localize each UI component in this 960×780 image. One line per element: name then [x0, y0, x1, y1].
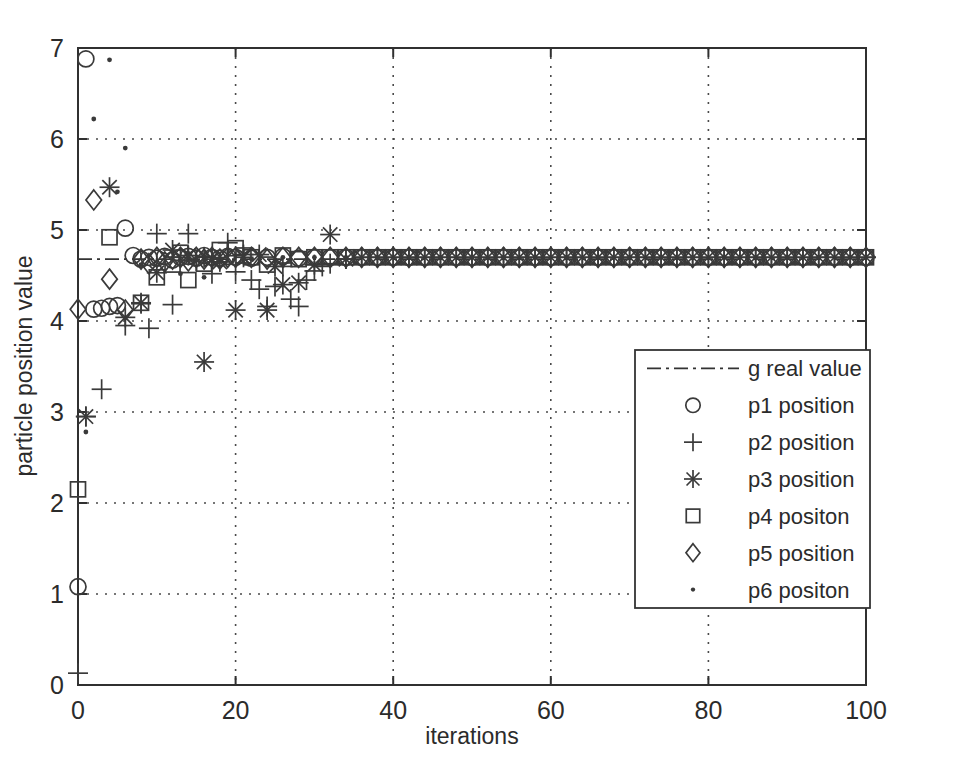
marker-point [753, 255, 758, 260]
legend-item-label: g real value [748, 356, 862, 381]
marker-star [684, 470, 702, 488]
marker-point [407, 255, 412, 260]
legend-item-label: p1 position [748, 393, 854, 418]
x-tick-label: 0 [71, 696, 85, 724]
marker-point [312, 255, 317, 260]
marker-point [115, 189, 120, 194]
particle-position-chart: 020406080100 01234567 iterations particl… [0, 0, 960, 780]
chart-canvas: 020406080100 01234567 iterations particl… [0, 0, 960, 780]
marker-point [344, 255, 349, 260]
marker-point [249, 257, 254, 262]
legend-item-label: p3 position [748, 467, 854, 492]
marker-star [320, 225, 340, 245]
marker-point [91, 117, 96, 122]
marker-point [533, 255, 538, 260]
legend-item-label: p5 position [748, 541, 854, 566]
marker-point [375, 255, 380, 260]
marker-point [564, 255, 569, 260]
marker-point [501, 255, 506, 260]
marker-point [690, 255, 695, 260]
y-tick-label: 0 [50, 671, 64, 699]
marker-star [257, 300, 277, 320]
marker-star [194, 352, 214, 372]
marker-point [202, 275, 207, 280]
marker-star [289, 273, 309, 293]
marker-star [226, 300, 246, 320]
marker-point [596, 255, 601, 260]
marker-point [659, 255, 664, 260]
marker-point [722, 255, 727, 260]
y-tick-label: 4 [50, 307, 64, 335]
y-tick-label: 6 [50, 125, 64, 153]
marker-point [691, 587, 695, 591]
marker-point [816, 255, 821, 260]
x-tick-label: 60 [537, 696, 565, 724]
y-tick-label: 2 [50, 489, 64, 517]
marker-point [627, 255, 632, 260]
marker-point [139, 262, 144, 267]
y-axis-title: particle position value [11, 255, 37, 476]
x-tick-label: 100 [845, 696, 887, 724]
marker-point [470, 255, 475, 260]
x-tick-label: 40 [379, 696, 407, 724]
marker-star [273, 275, 293, 295]
marker-star [100, 177, 120, 197]
legend-item-label: p2 position [748, 430, 854, 455]
marker-point [848, 255, 853, 260]
marker-point [83, 430, 88, 435]
x-tick-label: 80 [694, 696, 722, 724]
marker-point [107, 57, 112, 62]
marker-point [178, 271, 183, 276]
y-tick-label: 3 [50, 398, 64, 426]
y-tick-label: 1 [50, 580, 64, 608]
y-tick-label: 5 [50, 216, 64, 244]
marker-star [76, 407, 96, 427]
x-tick-label: 20 [222, 696, 250, 724]
legend-item-label: p6 positon [748, 578, 850, 603]
chart-legend[interactable]: g real valuep1 positionp2 positionp3 pos… [635, 350, 870, 608]
legend-item-label: p4 positon [748, 504, 850, 529]
marker-point [123, 146, 128, 151]
marker-point [438, 255, 443, 260]
y-tick-label: 7 [50, 34, 64, 62]
x-axis-title: iterations [425, 723, 518, 749]
marker-point [785, 255, 790, 260]
marker-point [280, 255, 285, 260]
